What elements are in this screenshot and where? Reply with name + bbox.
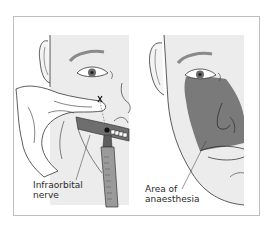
infraorbital-nerve-label: Infraorbital nerve [33, 180, 83, 200]
left-panel-injection: Infraorbital nerve [14, 17, 137, 215]
area-of-anaesthesia-label: Area of anaesthesia [145, 184, 199, 204]
right-panel-anaesthesia: Area of anaesthesia [138, 17, 259, 215]
ear-icon [150, 43, 165, 95]
needle-tip [104, 127, 109, 132]
syringe-hub [103, 135, 112, 147]
figure-frame: Infraorbital nerve [13, 16, 260, 216]
